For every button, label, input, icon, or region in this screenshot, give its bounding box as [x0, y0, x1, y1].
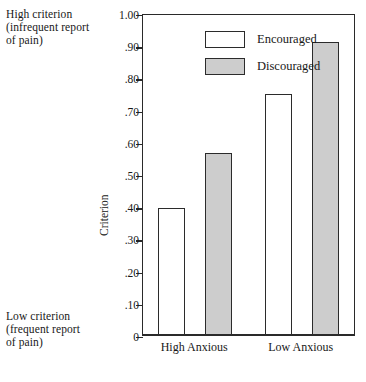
legend-item-discouraged[interactable]: Discouraged	[205, 56, 320, 77]
y-axis-title-wrap: Criterion	[84, 128, 100, 238]
annotation-low-criterion: Low criterion (frequent report of pain)	[6, 310, 118, 350]
y-axis-title: Criterion	[98, 194, 110, 236]
y-tick-label: .10	[125, 299, 139, 311]
annotation-low-line3: of pain)	[6, 336, 118, 349]
legend-swatch-encouraged	[205, 31, 245, 48]
figure-container: High criterion (infrequent report of pai…	[0, 0, 366, 382]
legend-label-encouraged: Encouraged	[257, 32, 317, 47]
y-tick-label: .60	[125, 138, 139, 150]
annotation-high-line2: (infrequent report	[6, 21, 118, 34]
legend: EncouragedDiscouraged	[205, 29, 320, 83]
annotation-high-criterion: High criterion (infrequent report of pai…	[6, 8, 118, 48]
y-tick-label: .20	[125, 267, 139, 279]
y-tick-label: .70	[125, 106, 139, 118]
y-tick-label: .50	[125, 170, 139, 182]
y-tick-label: .80	[125, 73, 139, 85]
bar-low-anxious-discouraged	[312, 42, 339, 335]
annotation-high-line1: High criterion	[6, 8, 118, 21]
legend-item-encouraged[interactable]: Encouraged	[205, 29, 320, 50]
legend-label-discouraged: Discouraged	[257, 59, 320, 74]
annotation-low-line2: (frequent report	[6, 323, 118, 336]
y-tick-label: .30	[125, 234, 139, 246]
bar-low-anxious-encouraged	[265, 94, 292, 336]
bar-high-anxious-discouraged	[205, 153, 232, 335]
y-tick-label: .90	[125, 41, 139, 53]
legend-swatch-discouraged	[205, 58, 245, 75]
annotation-low-line1: Low criterion	[6, 310, 118, 323]
y-tick-label: 1.00	[119, 9, 139, 21]
bar-high-anxious-encouraged	[158, 208, 185, 335]
annotation-high-line3: of pain)	[6, 34, 118, 47]
x-axis-label-high-anxious: High Anxious	[134, 340, 254, 355]
y-tick-label: .40	[125, 202, 139, 214]
x-axis-label-low-anxious: Low Anxious	[241, 340, 361, 355]
plot-area: 1.00.90.80.70.60.50.40.30.20.100 Encoura…	[142, 14, 355, 336]
